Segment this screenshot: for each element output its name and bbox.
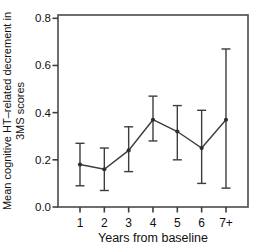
x-tick-label: 2 <box>101 216 108 230</box>
errorbar-figure: 0.00.20.40.60.81234567+ Mean cognitive H… <box>0 0 264 252</box>
data-point <box>151 118 155 122</box>
errorbar-chart: 0.00.20.40.60.81234567+ <box>0 0 264 252</box>
y-tick-label: 0.6 <box>35 59 51 71</box>
data-point <box>78 162 82 166</box>
x-tick-label: 3 <box>125 216 132 230</box>
data-point <box>175 129 179 133</box>
y-tick-label: 0.8 <box>35 12 51 24</box>
x-tick-label: 5 <box>174 216 181 230</box>
x-tick-label: 4 <box>150 216 157 230</box>
data-point <box>127 148 131 152</box>
x-axis-label: Years from baseline <box>58 231 248 245</box>
x-tick-label: 6 <box>198 216 205 230</box>
y-axis-label-line1: Mean cognitive HT–related decrement in <box>1 0 14 223</box>
data-point <box>224 118 228 122</box>
x-tick-label: 7+ <box>219 216 233 230</box>
x-tick-label: 1 <box>77 216 84 230</box>
y-axis-label: Mean cognitive HT–related decrement in 3… <box>1 0 27 223</box>
y-tick-label: 0.0 <box>35 201 51 213</box>
y-tick-label: 0.2 <box>35 154 51 166</box>
data-point <box>200 146 204 150</box>
y-tick-label: 0.4 <box>35 107 52 119</box>
y-axis-label-line2: 3MS scores <box>14 0 27 223</box>
data-point <box>102 167 106 171</box>
